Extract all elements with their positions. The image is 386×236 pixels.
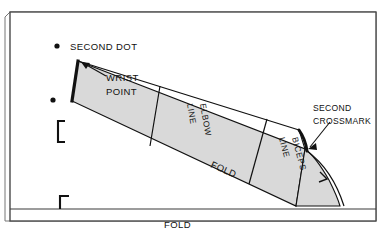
label-second-crossmark-line1: SECOND: [313, 103, 352, 113]
dot-marker-left: [50, 97, 55, 102]
label-second-crossmark-line2: CROSSMARK: [313, 116, 371, 126]
dot-marker-top: [54, 43, 59, 48]
label-wrist-point-line1: WRIST: [106, 72, 139, 83]
label-fold-bottom: FOLD: [164, 219, 191, 230]
label-second-dot: SECOND DOT: [70, 41, 137, 52]
diagram-canvas: SECOND DOT WRIST POINT ELBOW LINE BICEPS…: [0, 0, 386, 236]
pattern-diagram-figure: SECOND DOT WRIST POINT ELBOW LINE BICEPS…: [0, 0, 386, 236]
label-wrist-point-line2: POINT: [106, 86, 137, 97]
